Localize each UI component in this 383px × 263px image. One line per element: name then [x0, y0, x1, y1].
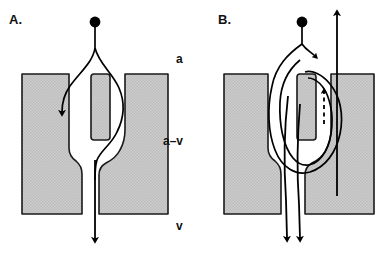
- figure-canvas: A. B. a a–v v: [0, 0, 383, 263]
- panel-letter-a: A.: [9, 12, 22, 27]
- source-dot: [90, 17, 101, 28]
- panel-letter-b: B.: [218, 12, 231, 27]
- source-dot: [297, 17, 308, 28]
- zone-label-arteriovenous: a–v: [163, 134, 183, 148]
- tissue-block-left: [22, 74, 82, 214]
- diagram-svg: [0, 0, 383, 263]
- zone-label-arterial: a: [176, 52, 183, 66]
- zone-label-venous: v: [176, 219, 183, 233]
- central-pillar: [91, 74, 110, 140]
- branch-arrow-short: [302, 44, 315, 56]
